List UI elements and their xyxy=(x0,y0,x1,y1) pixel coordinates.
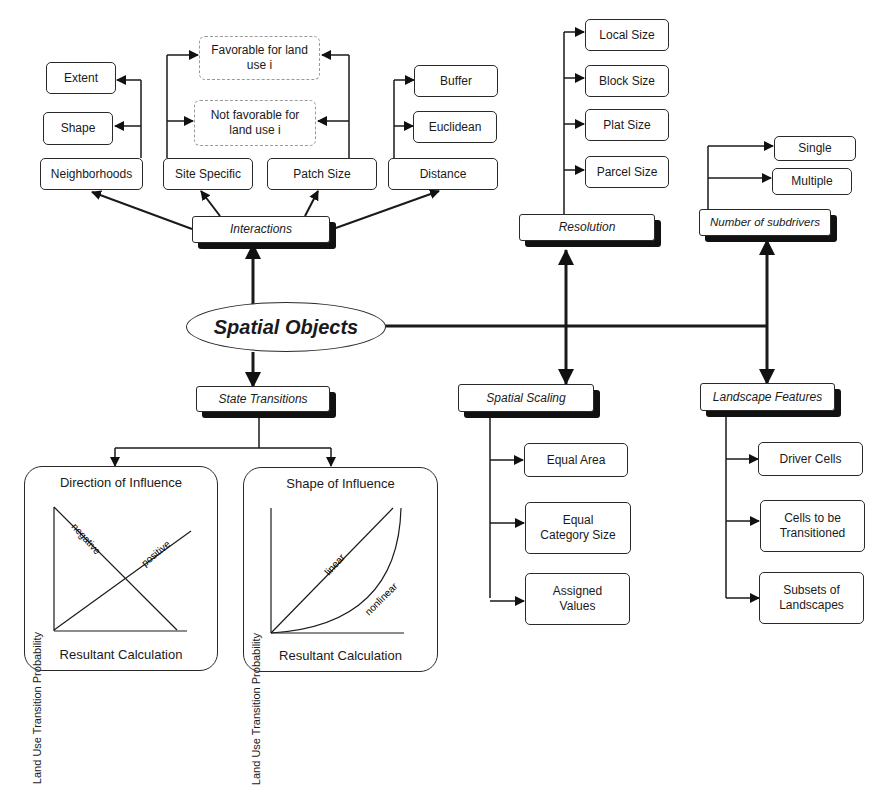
shape-of-influence-panel: Shape of Influence Land Use Transition P… xyxy=(243,467,438,672)
assigned-values-node[interactable]: Assigned Values xyxy=(525,573,630,625)
neighborhoods-node[interactable]: Neighborhoods xyxy=(40,158,143,190)
spatial-objects-node[interactable]: Spatial Objects xyxy=(186,302,386,352)
state-transitions-node[interactable]: State Transitions xyxy=(196,386,330,412)
positive-curve-label: positive xyxy=(139,538,172,569)
parcel-size-node[interactable]: Parcel Size xyxy=(585,156,669,188)
equal-area-node[interactable]: Equal Area xyxy=(524,443,628,477)
multiple-node[interactable]: Multiple xyxy=(772,168,852,195)
distance-node[interactable]: Distance xyxy=(388,158,498,190)
site-specific-node[interactable]: Site Specific xyxy=(163,158,253,190)
negative-curve-label: negative xyxy=(70,521,104,557)
shape-chart: linear nonlinear xyxy=(244,468,439,673)
extent-node[interactable]: Extent xyxy=(46,62,116,94)
interactions-node[interactable]: Interactions xyxy=(192,216,330,243)
single-node[interactable]: Single xyxy=(774,136,856,161)
resolution-node[interactable]: Resolution xyxy=(519,214,655,241)
plat-size-node[interactable]: Plat Size xyxy=(585,109,669,141)
block-size-node[interactable]: Block Size xyxy=(585,65,669,97)
spatial-scaling-node[interactable]: Spatial Scaling xyxy=(458,384,594,412)
equal-category-size-node[interactable]: Equal Category Size xyxy=(525,502,631,554)
nonlinear-curve-label: nonlinear xyxy=(363,580,400,617)
driver-cells-node[interactable]: Driver Cells xyxy=(758,442,863,476)
landscape-features-node[interactable]: Landscape Features xyxy=(700,383,835,411)
linear-curve-label: linear xyxy=(322,551,347,577)
direction-of-influence-panel: Direction of Influence Land Use Transiti… xyxy=(24,466,218,671)
favorable-land-use-node[interactable]: Favorable for land use i xyxy=(199,36,320,80)
euclidean-node[interactable]: Euclidean xyxy=(413,111,497,143)
not-favorable-land-use-node[interactable]: Not favorable for land use i xyxy=(194,100,316,146)
buffer-node[interactable]: Buffer xyxy=(414,65,498,97)
shape-node[interactable]: Shape xyxy=(43,112,113,145)
cells-to-be-transitioned-node[interactable]: Cells to be Transitioned xyxy=(760,500,865,552)
patch-size-node[interactable]: Patch Size xyxy=(267,158,377,190)
direction-chart: negative positive xyxy=(25,467,219,672)
x-axis-label: Resultant Calculation xyxy=(244,648,437,663)
subsets-of-landscapes-node[interactable]: Subsets of Landscapes xyxy=(759,572,864,624)
number-of-subdrivers-node[interactable]: Number of subdrivers xyxy=(699,209,831,236)
x-axis-label: Resultant Calculation xyxy=(25,647,217,662)
local-size-node[interactable]: Local Size xyxy=(585,19,669,51)
